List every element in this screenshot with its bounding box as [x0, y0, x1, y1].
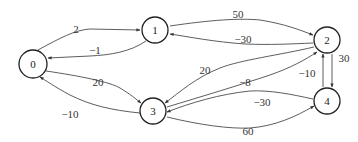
graph-diagram: 2 −1 20 −10 50 −30 20 −8 30 −10 −30 60 0…: [0, 0, 358, 142]
node-0: 0: [19, 50, 47, 78]
edge-4-3: [167, 91, 313, 112]
edge-label-4-3: −30: [253, 96, 271, 108]
node-label-4: 4: [324, 95, 330, 107]
edge-label-1-2: 50: [233, 8, 245, 20]
node-1: 1: [142, 17, 168, 43]
node-3: 3: [140, 98, 166, 124]
edge-label-0-1: 2: [73, 23, 79, 35]
node-4: 4: [314, 88, 340, 114]
edge-label-2-1: −30: [234, 33, 252, 45]
edge-label-0-3: 20: [93, 76, 105, 88]
edge-label-2-4: 30: [339, 52, 351, 64]
node-label-0: 0: [30, 58, 36, 70]
edge-3-0: [40, 77, 140, 113]
edge-label-4-2: −10: [298, 67, 316, 79]
node-label-2: 2: [324, 34, 330, 46]
edge-3-4: [167, 106, 314, 128]
edge-label-3-4: 60: [243, 125, 255, 137]
node-2: 2: [314, 27, 340, 53]
edge-label-2-3: 20: [200, 64, 212, 76]
edge-label-3-0: −10: [61, 108, 79, 120]
node-label-1: 1: [152, 24, 158, 36]
edge-label-3-2: −8: [239, 76, 251, 88]
node-label-3: 3: [150, 105, 156, 117]
edge-label-1-0: −1: [89, 44, 101, 56]
